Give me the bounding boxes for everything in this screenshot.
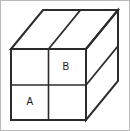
cell-label-b: B — [63, 61, 70, 72]
figure-frame: B A — [0, 0, 130, 131]
top-face-column-divider — [49, 10, 81, 49]
cell-label-a: A — [27, 96, 34, 107]
cuboid-diagram: B A — [1, 1, 130, 131]
right-face-row-divider — [86, 46, 118, 85]
